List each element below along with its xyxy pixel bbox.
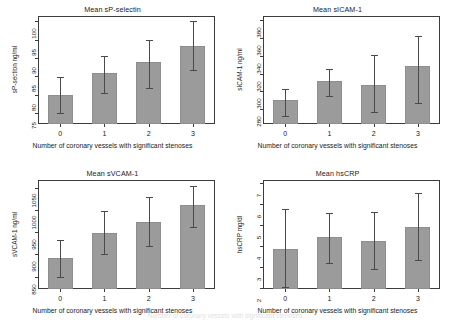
error-cap-upper xyxy=(57,77,64,78)
error-cap-upper xyxy=(190,21,197,22)
error-cap-upper xyxy=(101,211,108,212)
panel-hscrp: Mean hsCRP hsCRP mg/dl Number of coronar… xyxy=(225,164,450,329)
x-axis-tick xyxy=(418,289,419,292)
x-axis-label: Number of coronary vessels with signific… xyxy=(225,142,450,149)
x-axis-tick-label: 0 xyxy=(50,295,70,302)
x-axis-tick-label: 0 xyxy=(275,130,295,137)
error-bar xyxy=(329,69,330,96)
error-cap-upper xyxy=(326,69,333,70)
error-cap-upper xyxy=(326,213,333,214)
x-axis-tick-label: 2 xyxy=(139,295,159,302)
x-axis-tick xyxy=(104,289,105,292)
error-bar xyxy=(329,213,330,262)
x-axis-tick-label: 0 xyxy=(275,295,295,302)
error-cap-lower xyxy=(371,269,378,270)
error-cap-lower xyxy=(326,263,333,264)
x-axis-tick xyxy=(329,289,330,292)
error-bar xyxy=(193,21,194,69)
error-cap-lower xyxy=(190,227,197,228)
error-bar xyxy=(60,77,61,113)
x-axis-tick xyxy=(193,289,194,292)
x-axis-tick-label: 2 xyxy=(364,130,384,137)
y-axis-tick-label: 950 xyxy=(30,232,37,258)
x-axis-tick-label: 1 xyxy=(319,130,339,137)
x-axis-tick-label: 3 xyxy=(183,130,203,137)
y-axis-tick-label: 900 xyxy=(30,254,37,280)
y-axis-tick-label: 1000 xyxy=(30,210,37,236)
error-cap-upper xyxy=(371,212,378,213)
error-cap-lower xyxy=(57,277,64,278)
x-axis-tick-label: 3 xyxy=(408,295,428,302)
error-bar xyxy=(374,212,375,269)
error-cap-lower xyxy=(101,254,108,255)
chart-title: Mean sP-selectin xyxy=(0,5,225,14)
error-bar xyxy=(149,40,150,89)
chart-title: Mean sICAM-1 xyxy=(225,5,450,14)
panel-sicam-1: Mean sICAM-1 sICAM-1 ng/ml Number of cor… xyxy=(225,0,450,164)
error-cap-upper xyxy=(371,55,378,56)
error-cap-upper xyxy=(146,197,153,198)
y-axis-tick-label: 100 xyxy=(30,21,37,47)
error-cap-lower xyxy=(282,287,289,288)
x-axis-tick xyxy=(285,124,286,127)
error-cap-upper xyxy=(146,40,153,41)
error-cap-upper xyxy=(101,56,108,57)
x-axis-tick xyxy=(60,289,61,292)
x-axis-tick xyxy=(374,289,375,292)
error-cap-upper xyxy=(415,193,422,194)
error-bar xyxy=(285,89,286,116)
error-cap-lower xyxy=(326,96,333,97)
error-cap-lower xyxy=(415,103,422,104)
x-axis-tick xyxy=(329,124,330,127)
x-axis-tick xyxy=(149,124,150,127)
x-axis-tick-label: 2 xyxy=(139,130,159,137)
error-bar xyxy=(104,56,105,93)
error-bar xyxy=(374,55,375,112)
chart-title: Mean sVCAM-1 xyxy=(0,169,225,178)
error-cap-lower xyxy=(146,246,153,247)
y-axis-label: hsCRP mg/dl xyxy=(236,180,243,289)
y-axis-label: sVCAM-1 ng/ml xyxy=(11,180,18,289)
error-cap-lower xyxy=(101,93,108,94)
x-axis-tick xyxy=(193,124,194,127)
y-axis-tick-label: 1050 xyxy=(30,187,37,213)
y-axis-label: sICAM-1 ng/ml xyxy=(236,16,243,124)
error-bar xyxy=(418,36,419,102)
error-bar xyxy=(193,186,194,228)
error-cap-upper xyxy=(415,36,422,37)
x-axis-tick xyxy=(374,124,375,127)
x-axis-tick-label: 3 xyxy=(408,130,428,137)
error-cap-upper xyxy=(57,240,64,241)
scan-artifact-line: Number of coronary vessels with signific… xyxy=(0,312,450,319)
error-bar xyxy=(285,209,286,287)
y-axis-tick-label: 7 xyxy=(255,183,262,209)
y-axis-tick-label: 850 xyxy=(30,276,37,302)
error-bar xyxy=(104,211,105,254)
error-bar xyxy=(418,193,419,260)
error-cap-upper xyxy=(190,186,197,187)
error-bar xyxy=(149,197,150,247)
x-axis-tick-label: 1 xyxy=(319,295,339,302)
x-axis-tick-label: 0 xyxy=(50,130,70,137)
x-axis-tick-label: 1 xyxy=(94,130,114,137)
error-cap-lower xyxy=(415,260,422,261)
y-axis-label: sP-section ng/ml xyxy=(11,16,18,124)
error-cap-lower xyxy=(371,112,378,113)
x-axis-tick-label: 2 xyxy=(364,295,384,302)
x-axis-tick-label: 1 xyxy=(94,295,114,302)
x-axis-label: Number of coronary vessels with signific… xyxy=(0,142,225,149)
figure-grid: Mean sP-selectin sP-section ng/ml Number… xyxy=(0,0,450,329)
error-cap-lower xyxy=(282,116,289,117)
x-axis-tick xyxy=(104,124,105,127)
error-bar xyxy=(60,240,61,276)
x-axis-tick xyxy=(60,124,61,127)
error-cap-lower xyxy=(190,70,197,71)
x-axis-tick xyxy=(418,124,419,127)
error-cap-lower xyxy=(146,88,153,89)
y-axis-tick-label: 380 xyxy=(255,20,262,46)
error-cap-upper xyxy=(282,209,289,210)
x-axis-tick xyxy=(149,289,150,292)
x-axis-tick-label: 3 xyxy=(183,295,203,302)
chart-title: Mean hsCRP xyxy=(225,169,450,178)
error-cap-upper xyxy=(282,89,289,90)
